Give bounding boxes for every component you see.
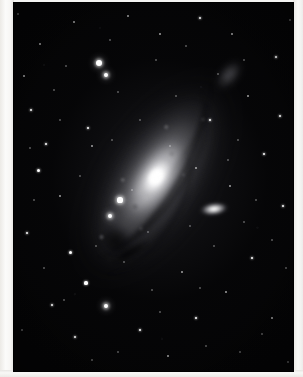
- paper-margin-left: [0, 0, 14, 377]
- screenshot-page: [0, 0, 303, 377]
- paper-margin-right: [293, 0, 303, 377]
- astrophoto-plate: [13, 2, 294, 372]
